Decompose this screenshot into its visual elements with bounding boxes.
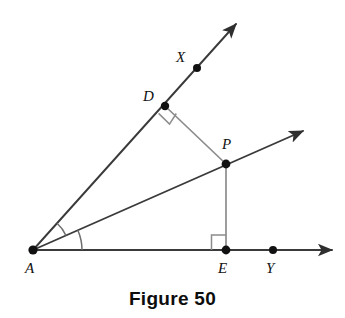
angle-arc-PAY (78, 230, 82, 250)
point-label-P: P (222, 137, 231, 152)
figure-caption: Figure 50 (0, 288, 345, 310)
point-D (161, 102, 169, 110)
point-E (222, 246, 231, 255)
geometry-canvas (0, 0, 345, 318)
point-label-D: D (143, 89, 154, 104)
ray-AX (33, 24, 236, 250)
angle-arc-XAP (57, 223, 66, 235)
point-label-A: A (25, 261, 34, 276)
point-label-E: E (218, 261, 227, 276)
point-X (193, 64, 201, 72)
angle-arcs-group (57, 223, 82, 250)
point-P (222, 160, 231, 169)
point-Y (269, 246, 277, 254)
point-A (28, 245, 37, 254)
point-label-X: X (176, 50, 185, 65)
segment-DP (165, 106, 226, 164)
ray-AP (33, 131, 303, 250)
point-label-Y: Y (266, 261, 274, 276)
geometry-figure: A D X P E Y Figure 50 (0, 0, 345, 318)
right-angle-markers-group (159, 113, 226, 250)
